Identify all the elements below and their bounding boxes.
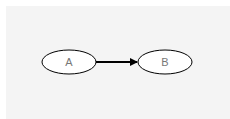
node-b[interactable]: B <box>138 50 192 74</box>
node-a-label: A <box>65 56 73 68</box>
graph-svg: A B <box>0 0 230 119</box>
node-b-label: B <box>161 56 168 68</box>
node-a[interactable]: A <box>42 50 96 74</box>
